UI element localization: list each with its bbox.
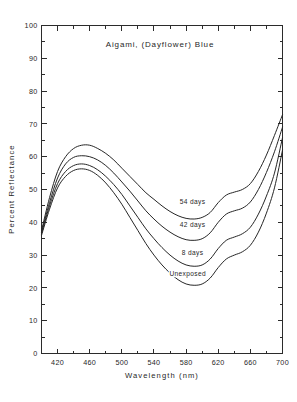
y-tick-label: 40: [29, 218, 38, 227]
chart-title: Aigami, (Dayflower) Blue: [106, 40, 214, 49]
y-axis-title: Percent Reflectance: [7, 144, 16, 233]
y-tick-label: 30: [29, 251, 38, 260]
y-tick-label: 100: [25, 21, 38, 30]
x-tick-label: 580: [180, 358, 193, 367]
y-tick-label: 20: [29, 284, 38, 293]
series-label-unexposed: Unexposed: [169, 270, 206, 278]
series-label-8-days: 8 days: [182, 249, 204, 257]
x-tick-label: 620: [212, 358, 225, 367]
data-curves: [42, 115, 283, 286]
spectral-reflectance-chart: 420460500540580620660700 010203040506070…: [0, 0, 297, 402]
y-tick-label: 60: [29, 152, 38, 161]
plot-axes: [42, 26, 283, 354]
series-inline-labels: 54 days54 days42 days42 days8 days8 days…: [169, 198, 206, 278]
x-axis-tick-labels: 420460500540580620660700: [51, 358, 289, 367]
x-tick-label: 460: [83, 358, 96, 367]
y-tick-label: 50: [29, 185, 38, 194]
axis-ticks: [42, 26, 283, 354]
x-tick-label: 540: [148, 358, 161, 367]
y-tick-label: 90: [29, 54, 38, 63]
y-tick-label: 80: [29, 87, 38, 96]
curve-8-days: [42, 138, 283, 267]
plot-frame: [42, 26, 283, 354]
series-label-42-days: 42 days: [180, 221, 206, 229]
curve-54-days: [42, 115, 283, 231]
y-tick-label: 0: [33, 349, 37, 358]
series-label-54-days: 54 days: [180, 198, 206, 206]
y-tick-label: 10: [29, 316, 38, 325]
y-axis-tick-labels: 0102030405060708090100: [25, 21, 38, 358]
curve-unexposed: [42, 150, 283, 285]
curve-42-days: [42, 127, 283, 240]
x-tick-label: 420: [51, 358, 64, 367]
x-tick-label: 660: [244, 358, 257, 367]
x-tick-label: 500: [115, 358, 128, 367]
y-tick-label: 70: [29, 120, 38, 129]
chart-figure: 420460500540580620660700 010203040506070…: [0, 0, 297, 402]
x-tick-label: 700: [276, 358, 289, 367]
x-axis-title: Wavelength (nm): [125, 371, 199, 380]
